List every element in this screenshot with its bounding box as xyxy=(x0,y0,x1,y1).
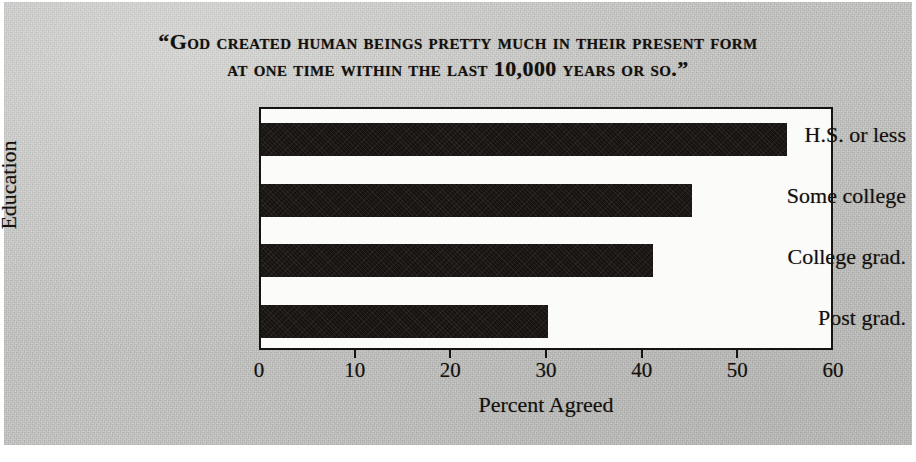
chart-title: “God created human beings pretty much in… xyxy=(0,28,916,82)
x-axis-tick-label: 40 xyxy=(612,358,672,383)
category-label: H.S. or less xyxy=(668,122,916,148)
x-axis-tick-label: 50 xyxy=(707,358,767,383)
x-axis-tick-label: 10 xyxy=(325,358,385,383)
x-axis-tick xyxy=(736,350,738,358)
x-axis-tick-label: 30 xyxy=(516,358,576,383)
x-axis-tick-label: 0 xyxy=(229,358,289,383)
category-label: Some college xyxy=(668,183,916,209)
category-label-text: Some college xyxy=(668,183,906,209)
category-label-text: H.S. or less xyxy=(668,122,906,148)
y-axis-title: Education xyxy=(0,115,22,255)
category-label: Post grad. xyxy=(668,305,916,331)
bar-college-grad xyxy=(261,244,653,277)
category-label-text: Post grad. xyxy=(668,305,906,331)
x-axis-tick-label: 60 xyxy=(803,358,863,383)
chart-title-line-2: at one time within the last 10,000 years… xyxy=(0,55,916,82)
x-axis-tick xyxy=(354,350,356,358)
bar-post-grad xyxy=(261,305,548,338)
x-axis-tick xyxy=(641,350,643,358)
x-axis-tick-label: 20 xyxy=(420,358,480,383)
category-label-text: College grad. xyxy=(668,244,906,270)
figure-page: “God created human beings pretty much in… xyxy=(0,0,916,462)
x-axis-tick xyxy=(545,350,547,358)
bar-some-college xyxy=(261,184,692,217)
x-axis-title: Percent Agreed xyxy=(259,392,833,418)
category-label: College grad. xyxy=(668,244,916,270)
chart-title-line-1: “God created human beings pretty much in… xyxy=(0,28,916,55)
x-axis-tick xyxy=(449,350,451,358)
